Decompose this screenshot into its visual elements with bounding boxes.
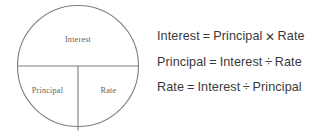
equals-sign: = (200, 24, 213, 49)
equation-row: Rate=Interest÷Principal (157, 74, 328, 99)
equation-left-term: Interest (157, 29, 200, 43)
multiply-operator-icon: ✕ (262, 25, 277, 50)
circle-label-principal: Principal (17, 87, 78, 95)
equation-operand-1: Principal (213, 29, 262, 43)
equation-operand-2: Rate (278, 29, 305, 43)
interest-circle-diagram: Interest Principal Rate (0, 0, 152, 132)
equation-row: Principal=Interest÷Rate (157, 49, 328, 74)
equals-sign: = (206, 50, 219, 75)
equation-operand-1: Interest (220, 55, 263, 69)
equals-sign: = (184, 75, 197, 100)
circle-label-rate: Rate (78, 87, 139, 95)
equation-operand-2: Principal (253, 80, 302, 94)
equation-row: Interest=Principal✕Rate (157, 24, 328, 49)
divide-operator-icon: ÷ (240, 74, 252, 99)
interest-formula-figure: Interest Principal Rate Interest=Princip… (0, 0, 328, 132)
equation-operand-1: Interest (197, 80, 240, 94)
circle-diagram-svg (0, 0, 152, 132)
equation-left-term: Principal (157, 55, 206, 69)
equation-list: Interest=Principal✕Rate Principal=Intere… (157, 24, 328, 99)
circle-label-interest: Interest (17, 36, 139, 44)
equation-operand-2: Rate (275, 55, 302, 69)
equation-left-term: Rate (157, 80, 184, 94)
divide-operator-icon: ÷ (262, 49, 274, 74)
